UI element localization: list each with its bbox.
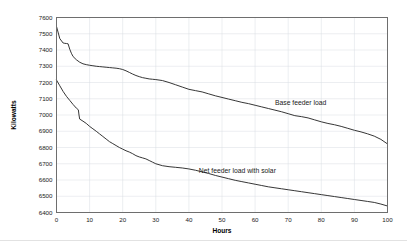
- x-tick-label: 10: [86, 216, 93, 223]
- y-tick-label: 7100: [39, 95, 53, 102]
- y-tick-label: 6400: [39, 209, 53, 216]
- y-tick-label: 6800: [39, 144, 53, 151]
- y-tick-label: 7200: [39, 79, 53, 86]
- y-tick-label: 7400: [39, 46, 53, 53]
- x-tick-label: 70: [285, 216, 292, 223]
- series-label-1: Base feeder load: [275, 99, 327, 106]
- y-tick-label: 7000: [39, 111, 53, 118]
- y-tick-label: 7600: [39, 14, 53, 21]
- y-axis-title: Kilowatts: [10, 100, 17, 130]
- x-tick-label: 40: [185, 216, 192, 223]
- x-tick-label: 30: [152, 216, 159, 223]
- y-tick-label: 6600: [39, 176, 53, 183]
- y-tick-label: 7300: [39, 62, 53, 69]
- y-tick-label: 6500: [39, 192, 53, 199]
- x-tick-label: 60: [252, 216, 259, 223]
- series-label-2: Net feeder load with solar: [199, 167, 277, 174]
- x-axis-title: Hours: [212, 227, 231, 234]
- x-tick-label: 90: [351, 216, 358, 223]
- x-tick-label: 100: [382, 216, 393, 223]
- y-tick-label: 6700: [39, 160, 53, 167]
- y-tick-label: 7500: [39, 30, 53, 37]
- chart-background: [0, 0, 407, 252]
- x-tick-label: 0: [55, 216, 59, 223]
- x-tick-label: 80: [318, 216, 325, 223]
- x-tick-label: 20: [119, 216, 126, 223]
- y-tick-label: 6900: [39, 127, 53, 134]
- x-tick-label: 50: [219, 216, 226, 223]
- feeder-load-chart: 7600750074007300720071007000690068006700…: [0, 0, 407, 252]
